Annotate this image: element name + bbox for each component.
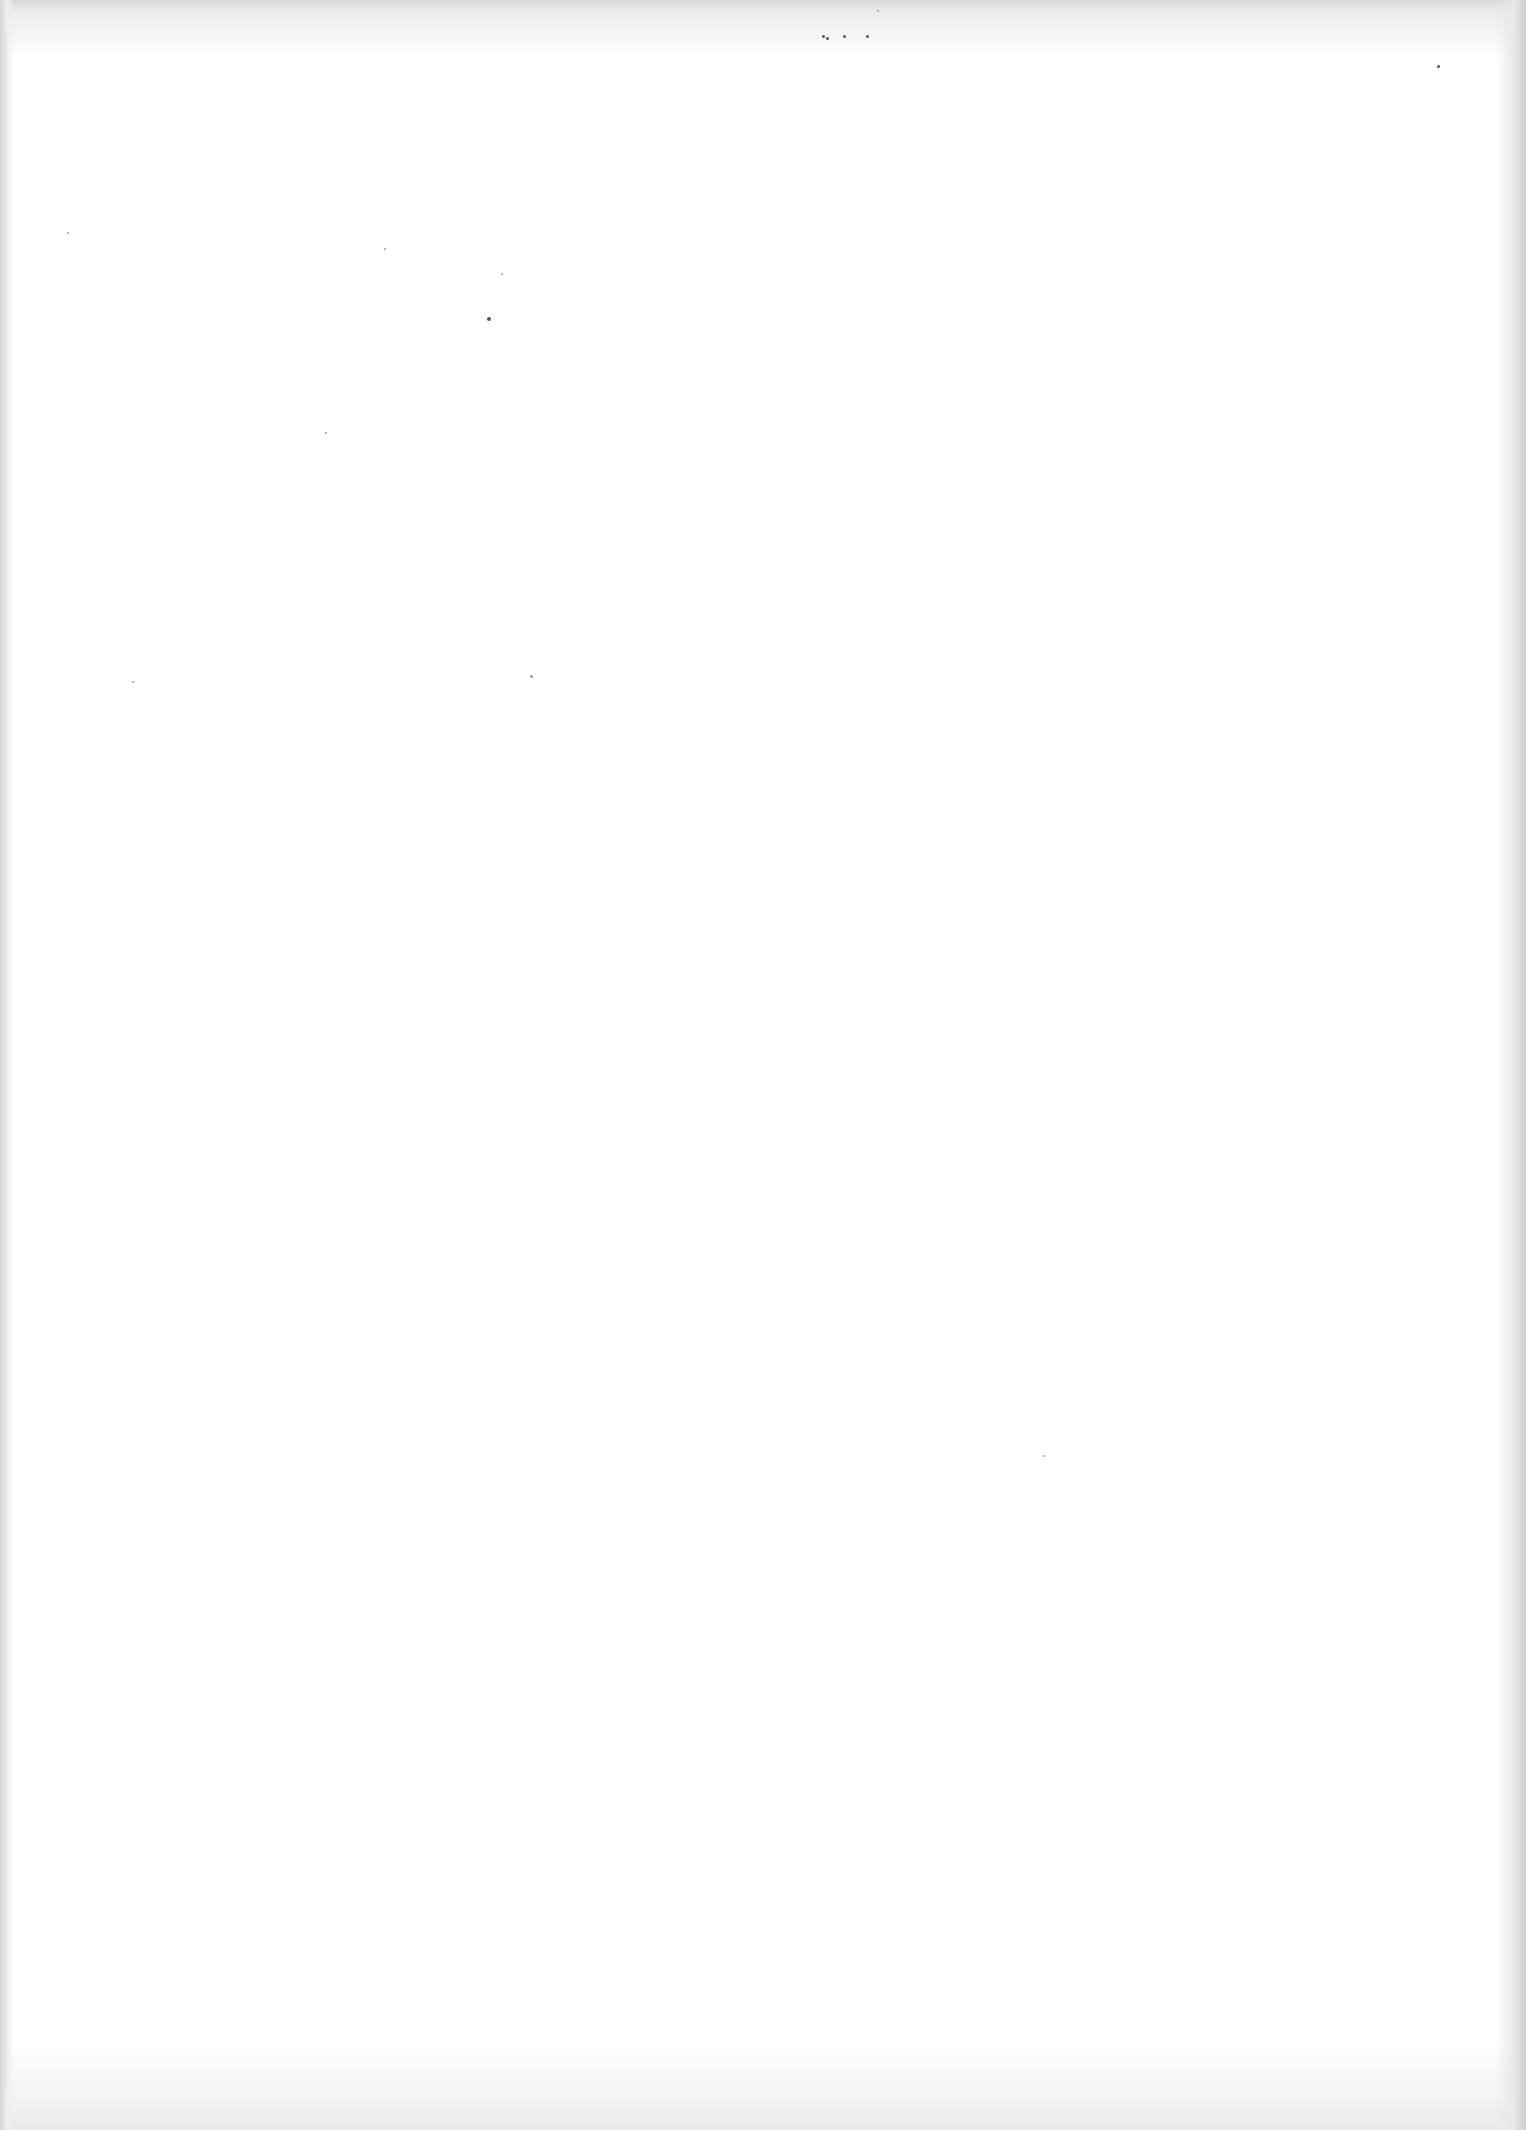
scan-speck [843,35,846,38]
scan-speck [132,681,134,683]
scan-speck [67,232,69,234]
scan-speck [826,37,829,40]
scan-speck [487,317,491,321]
scan-edge-top [0,0,1526,60]
scan-speck [1043,1455,1045,1457]
scan-speck [501,273,503,275]
scan-speck [384,248,386,250]
scan-edge-bottom [0,2040,1526,2130]
scan-edge-left [0,0,14,2130]
scan-speck [1437,65,1440,68]
blank-page [0,0,1526,2130]
scan-speck [530,675,533,678]
scan-speck [325,432,327,434]
scan-speck [866,35,869,38]
scan-edge-right [1496,0,1526,2130]
scan-speck [877,10,879,12]
scan-speck [822,35,825,38]
